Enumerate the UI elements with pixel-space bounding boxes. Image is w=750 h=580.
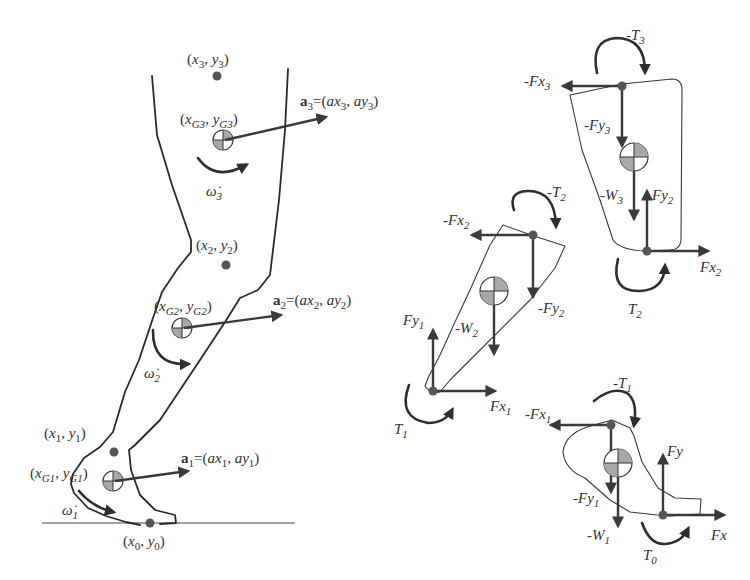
ankle-joint-label: (x1, y1) xyxy=(44,425,86,444)
ground-contact-dot xyxy=(146,519,155,528)
shank-acceleration-label: a2=(ax2, ay2) xyxy=(273,292,351,311)
foot-acceleration-label: a1=(ax1, ay1) xyxy=(181,450,259,469)
thigh-angular-accel-arrow xyxy=(198,158,246,172)
shank-fx-top-label: -Fx2 xyxy=(443,212,470,231)
thigh-fbd-com-symbol xyxy=(620,143,648,171)
thigh-weight-label: -W3 xyxy=(600,187,624,206)
thigh-com-label: (xG3, yG3) xyxy=(180,111,238,130)
thigh-angular-accel-label: ω̇3 xyxy=(206,183,223,202)
shank-torque-bottom-label: T1 xyxy=(394,421,408,440)
shank-top-joint xyxy=(529,231,538,240)
foot-weight-label: -W1 xyxy=(587,527,610,546)
biomechanics-diagram: (x3, y3) (x2, y2) (x1, y1) (x0, y0) (xG3… xyxy=(0,0,750,580)
thigh-torque-bottom-label: T2 xyxy=(628,301,642,320)
leg-outline-back xyxy=(71,76,191,525)
foot-angular-accel-arrow xyxy=(79,491,113,512)
thigh-fx-bottom-label: Fx2 xyxy=(699,259,722,278)
ankle-joint-dot xyxy=(110,448,119,457)
foot-free-body-diagram: -T1 -Fx1 -Fy1 -W1 Fy Fx T0 xyxy=(525,375,727,566)
hip-joint-label: (x3, y3) xyxy=(187,51,229,70)
foot-acceleration-arrow xyxy=(115,471,188,481)
ground-contact-label: (x0, y0) xyxy=(123,533,165,552)
thigh-fx-top-label: -Fx3 xyxy=(524,73,551,92)
thigh-fy-top-label: -Fy3 xyxy=(584,117,611,136)
foot-ground-joint xyxy=(659,511,668,520)
foot-top-joint xyxy=(607,421,616,430)
hip-joint-dot xyxy=(213,72,222,81)
thigh-bottom-joint xyxy=(643,247,652,256)
shank-weight-label: -W2 xyxy=(455,320,479,339)
foot-fy-ground-label: Fy xyxy=(666,443,683,459)
foot-fy-top-label: -Fy1 xyxy=(573,490,599,509)
thigh-fy-bottom-label: Fy2 xyxy=(651,187,674,206)
shank-free-body-diagram: -T2 -Fx2 -Fy2 -W2 Fy1 Fx1 T1 xyxy=(394,184,566,440)
shank-com-label: (xG2, yG2) xyxy=(154,298,212,317)
foot-angular-accel-label: ω̇1 xyxy=(62,502,78,521)
thigh-acceleration-label: a3=(ax3, ay3) xyxy=(300,93,378,112)
thigh-free-body-diagram: -T3 -Fx3 -Fy3 -W3 Fy2 Fx2 T2 xyxy=(524,27,722,320)
foot-torque-ground-label: T0 xyxy=(643,547,657,566)
thigh-torque-top-arrow xyxy=(596,38,645,73)
thigh-acceleration-arrow xyxy=(225,117,326,140)
knee-joint-dot xyxy=(222,261,231,270)
thigh-top-joint xyxy=(618,82,627,91)
foot-torque-ground-arrow xyxy=(642,523,688,544)
shank-fbd-com-symbol xyxy=(480,277,508,305)
leg-model: (x3, y3) (x2, y2) (x1, y1) (x0, y0) (xG3… xyxy=(30,51,378,552)
foot-fx-top-label: -Fx1 xyxy=(525,406,551,425)
foot-com-label: (xG1, yG1) xyxy=(30,465,88,484)
foot-torque-top-arrow xyxy=(594,391,635,425)
knee-joint-label: (x2, y2) xyxy=(196,237,238,256)
shank-angular-accel-label: ω̇2 xyxy=(144,365,161,384)
shank-fx-bottom-label: Fx1 xyxy=(489,398,511,417)
foot-fbd-com-symbol xyxy=(604,449,632,477)
foot-fx-ground-label: Fx xyxy=(710,527,727,543)
shank-bottom-joint xyxy=(429,387,438,396)
shank-fy-top-label: -Fy2 xyxy=(538,300,565,319)
shank-fy-bottom-label: Fy1 xyxy=(402,312,424,331)
thigh-torque-bottom-arrow xyxy=(616,259,665,291)
